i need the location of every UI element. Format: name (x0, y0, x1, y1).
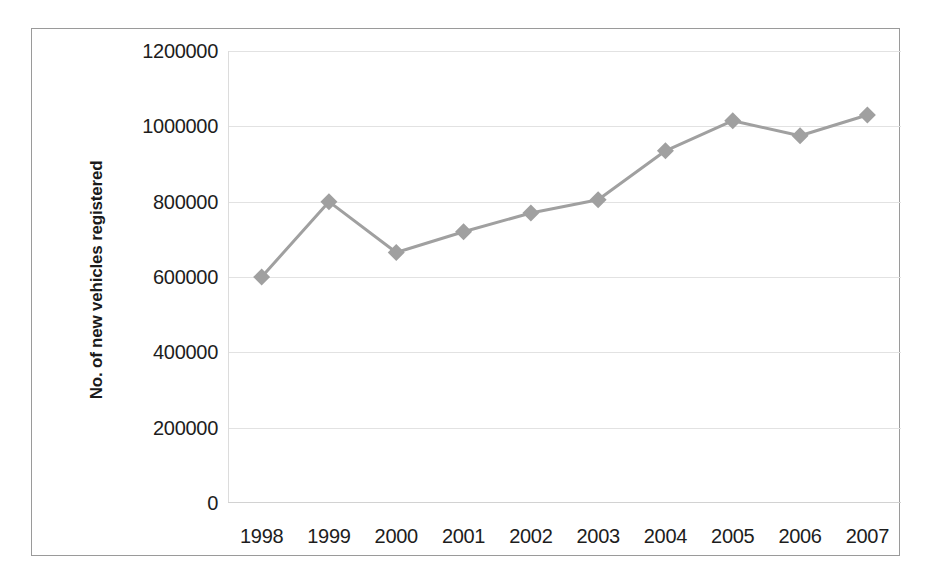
series-line (262, 115, 868, 277)
x-axis-tick-label: 1999 (307, 525, 350, 548)
y-axis-tick-label: 1200000 (88, 40, 218, 63)
data-series-line (228, 51, 901, 503)
x-axis-tick-labels: 1998199920002001200220032004200520062007 (228, 525, 901, 555)
y-axis-tick-label: 200000 (88, 416, 218, 439)
y-axis-tick-label: 400000 (88, 341, 218, 364)
plot-area (228, 51, 901, 503)
data-point-marker (522, 204, 539, 221)
data-point-marker (455, 223, 472, 240)
data-point-marker (859, 107, 876, 124)
x-axis-tick-label: 2000 (375, 525, 418, 548)
x-axis-tick-label: 2005 (711, 525, 754, 548)
x-axis-tick-label: 2004 (644, 525, 687, 548)
x-axis-tick-label: 2007 (846, 525, 889, 548)
x-axis-tick-label: 2001 (442, 525, 485, 548)
data-point-marker (792, 127, 809, 144)
y-axis-tick-label: 0 (88, 492, 218, 515)
chart-frame: No. of new vehicles registered 020000040… (31, 28, 900, 556)
x-axis-tick-label: 2003 (576, 525, 619, 548)
data-point-marker (724, 112, 741, 129)
x-axis-tick-label: 2006 (778, 525, 821, 548)
x-axis-tick-label: 2002 (509, 525, 552, 548)
y-axis-tick-label: 1000000 (88, 115, 218, 138)
y-axis-tick-label: 600000 (88, 266, 218, 289)
y-axis-tick-labels: 020000040000060000080000010000001200000 (88, 29, 218, 555)
y-axis-tick-label: 800000 (88, 190, 218, 213)
x-axis-tick-label: 1998 (240, 525, 283, 548)
